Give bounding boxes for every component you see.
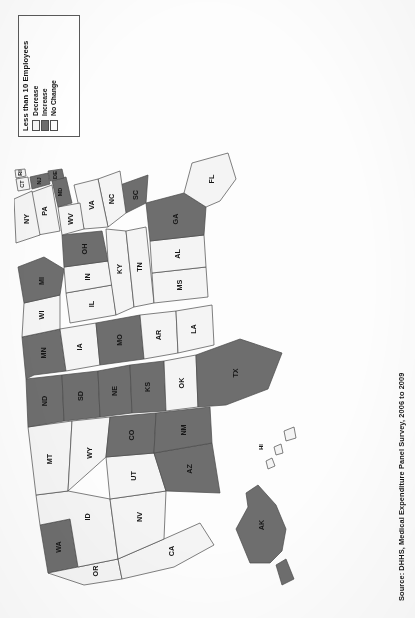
state-ok[interactable]: OK (164, 355, 198, 411)
state-nj[interactable]: NJ (30, 173, 50, 189)
legend-swatch-increase (40, 120, 48, 131)
state-mt[interactable]: MT (28, 421, 72, 495)
legend-label-nochange: No Change (50, 80, 57, 116)
state-mn[interactable]: MN (22, 329, 66, 379)
legend-label-decrease: Decrease (32, 86, 39, 116)
state-oh[interactable]: OH (62, 231, 108, 267)
state-ak[interactable]: AK (236, 485, 294, 585)
state-mi[interactable]: MI (18, 257, 64, 303)
state-ct[interactable]: CT (16, 177, 30, 191)
state-co[interactable]: CO (106, 413, 156, 457)
source-caption: Source: DHHS, Medical Expenditure Panel … (397, 373, 406, 602)
state-al[interactable]: AL (150, 235, 206, 273)
state-ri[interactable]: RI (15, 169, 26, 178)
legend-title: Less than 10 Employees (22, 21, 30, 131)
map-figure: WA OR CA ID NV (8, 9, 408, 609)
state-hi[interactable]: HI (258, 427, 296, 469)
scanned-page: WA OR CA ID NV (0, 0, 415, 618)
state-ia[interactable]: IA (60, 323, 100, 371)
state-tx[interactable]: TX (196, 339, 282, 407)
legend-item-nochange: No Change (49, 21, 57, 131)
state-wy[interactable]: WY (68, 417, 110, 491)
svg-text:HI: HI (258, 444, 264, 450)
state-mo[interactable]: MO (96, 315, 144, 365)
us-choropleth-map: WA OR CA ID NV (14, 133, 344, 603)
legend-item-decrease: Decrease (31, 21, 39, 131)
state-wv[interactable]: WV (58, 203, 84, 235)
state-sd[interactable]: SD (62, 371, 100, 421)
legend-swatch-nochange (49, 120, 57, 131)
legend-label-increase: Increase (41, 88, 48, 116)
state-nd[interactable]: ND (26, 375, 64, 427)
us-map-svg: WA OR CA ID NV (14, 133, 344, 603)
state-ne[interactable]: NE (98, 365, 132, 417)
state-ks[interactable]: KS (130, 361, 166, 413)
legend-swatch-decrease (31, 120, 39, 131)
state-la[interactable]: LA (176, 305, 214, 353)
state-ar[interactable]: AR (140, 311, 178, 359)
legend-item-increase: Increase (40, 21, 48, 131)
map-legend: Less than 10 Employees Decrease Increase… (18, 15, 80, 137)
